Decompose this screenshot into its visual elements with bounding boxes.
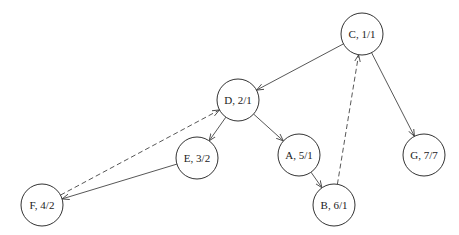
node-e: E, 3/2 — [176, 137, 218, 179]
edge-c-to-d — [257, 44, 344, 90]
edge-a-to-b — [311, 172, 322, 188]
node-label: E, 3/2 — [184, 152, 210, 164]
edge-d-to-e — [209, 117, 226, 141]
node-label: B, 6/1 — [321, 199, 348, 211]
node-label: C, 1/1 — [349, 28, 376, 40]
graph-canvas: C, 1/1D, 2/1G, 7/7E, 3/2A, 5/1F, 4/2B, 6… — [0, 0, 459, 235]
edge-d-to-a — [254, 114, 284, 141]
node-d: D, 2/1 — [217, 79, 259, 121]
node-b: B, 6/1 — [313, 184, 355, 226]
node-label: G, 7/7 — [410, 149, 438, 161]
edge-b-to-c-dashed — [337, 55, 358, 185]
node-g: G, 7/7 — [403, 134, 445, 176]
node-label: A, 5/1 — [285, 149, 313, 161]
node-label: F, 4/2 — [30, 199, 55, 211]
nodes-layer: C, 1/1D, 2/1G, 7/7E, 3/2A, 5/1F, 4/2B, 6… — [21, 13, 445, 226]
edge-e-to-f — [62, 164, 177, 199]
node-f: F, 4/2 — [21, 184, 63, 226]
node-c: C, 1/1 — [341, 13, 383, 55]
node-a: A, 5/1 — [278, 134, 320, 176]
edge-c-to-g — [372, 53, 415, 137]
node-label: D, 2/1 — [224, 94, 252, 106]
